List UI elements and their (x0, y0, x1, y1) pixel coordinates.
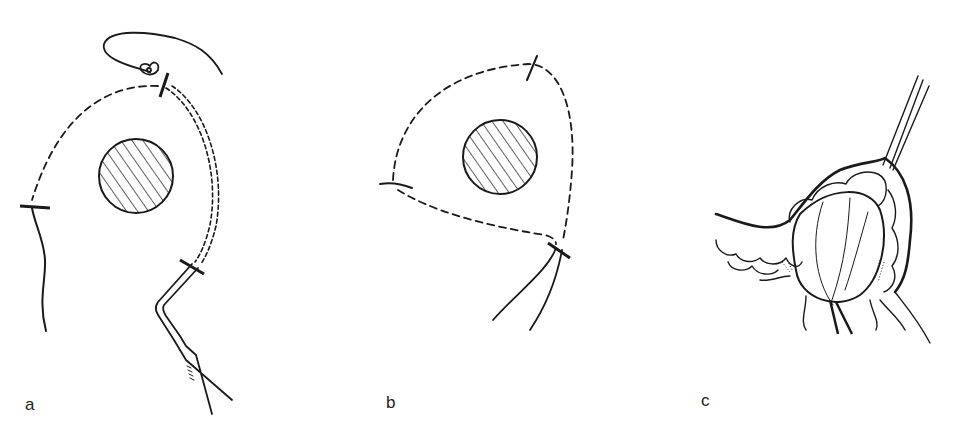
stitch-bottom-a (180, 260, 204, 274)
panel-label-c: c (701, 391, 710, 411)
wound-edge-left-a (32, 208, 46, 331)
mass-striations-c (816, 198, 868, 305)
incision-dashed-lower-b (398, 190, 556, 244)
probe-instrument-a (156, 264, 232, 414)
panel-b (380, 56, 573, 330)
retraction-strings-c (883, 76, 929, 170)
stitch-top-a (160, 73, 168, 97)
panel-label-b: b (386, 393, 395, 413)
lesion-a (99, 139, 173, 213)
panel-a (20, 33, 232, 414)
skin-flap-a (104, 33, 222, 74)
knot-a (140, 63, 158, 75)
probe-grip-marks-a (187, 366, 194, 380)
stitch-left-b (380, 183, 412, 188)
tissue-lobules-right-c (884, 190, 898, 292)
tissue-lobules-top-c (789, 172, 886, 222)
stitch-top-b (527, 56, 537, 80)
lesion-b (463, 120, 537, 194)
stitch-left-a (20, 206, 50, 208)
tumor-mass-c (793, 192, 884, 302)
tissue-lobules-left-c (716, 240, 802, 280)
outer-capsule-c (716, 158, 911, 292)
panel-c (716, 76, 930, 343)
wound-edge-b (493, 248, 562, 330)
illustration-canvas (0, 0, 954, 437)
panel-label-a: a (25, 395, 34, 415)
